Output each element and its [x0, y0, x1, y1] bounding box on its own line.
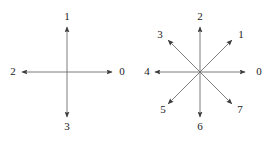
- direction-arrow-1: [200, 40, 232, 72]
- direction-arrow-7: [200, 72, 232, 104]
- direction-label-1: 1: [64, 10, 70, 22]
- direction-label-3: 3: [157, 28, 163, 40]
- direction-label-4: 4: [144, 65, 150, 77]
- direction-label-5: 5: [160, 103, 166, 115]
- direction-code-figure: 0123 01234567: [0, 0, 269, 143]
- direction-label-3: 3: [64, 120, 70, 132]
- direction-label-7: 7: [237, 103, 243, 115]
- direction-label-2: 2: [10, 65, 16, 77]
- four-connectivity-diagram: 0123: [10, 10, 125, 132]
- direction-label-2: 2: [197, 10, 203, 22]
- direction-label-6: 6: [197, 120, 203, 132]
- direction-arrow-3: [168, 40, 200, 72]
- eight-connectivity-diagram: 01234567: [144, 10, 262, 132]
- direction-label-0: 0: [119, 65, 125, 77]
- direction-label-0: 0: [256, 65, 262, 77]
- direction-arrow-5: [168, 72, 200, 104]
- direction-label-1: 1: [238, 28, 244, 40]
- direction-diagram-canvas: 0123 01234567: [0, 0, 269, 143]
